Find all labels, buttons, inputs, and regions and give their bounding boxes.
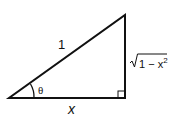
opposite-radicand: 1 − x bbox=[139, 58, 163, 70]
opposite-exponent: 2 bbox=[163, 56, 167, 65]
angle-label: θ bbox=[38, 85, 43, 96]
hypotenuse-label: 1 bbox=[58, 38, 65, 51]
opposite-label: 1 − x2 bbox=[139, 57, 168, 70]
right-angle-mark bbox=[118, 91, 125, 98]
triangle bbox=[9, 15, 125, 98]
angle-arc bbox=[31, 84, 35, 98]
adjacent-label: x bbox=[68, 102, 75, 116]
